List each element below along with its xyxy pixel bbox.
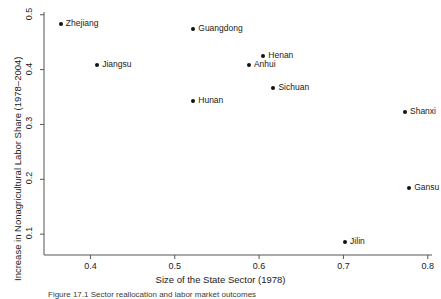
x-tick-label: 0.4 xyxy=(70,261,110,271)
data-point-label: Zhejiang xyxy=(66,18,99,28)
y-tick-label: 0.4 xyxy=(24,62,34,76)
x-tick-label: 0.7 xyxy=(323,261,363,271)
data-point xyxy=(403,110,407,114)
data-point-label: Jilin xyxy=(350,236,365,246)
data-point-label: Guangdong xyxy=(198,23,242,33)
y-tick-label: 0.3 xyxy=(24,116,34,130)
x-axis-ticks xyxy=(90,255,427,259)
data-point-label: Sichuan xyxy=(278,82,309,92)
y-axis-ticks xyxy=(40,15,44,234)
x-tick-label: 0.8 xyxy=(408,261,441,271)
data-point-label: Gansu xyxy=(414,182,439,192)
data-point-label: Shanxi xyxy=(410,106,436,116)
data-point-label: Anhui xyxy=(254,59,276,69)
x-tick-label: 0.6 xyxy=(239,261,279,271)
axis-spines xyxy=(44,12,432,255)
y-tick-label: 0.5 xyxy=(24,7,34,21)
y-tick-label: 0.2 xyxy=(24,171,34,185)
data-point-label: Hunan xyxy=(198,95,223,105)
x-axis-title: Size of the State Sector (1978) xyxy=(0,274,441,285)
data-point-label: Jiangsu xyxy=(102,59,131,69)
data-point xyxy=(407,186,411,190)
y-axis-title: Increase in Nonagricultural Labor Share … xyxy=(12,57,23,281)
figure-caption: Figure 17.1 Sector reallocation and labo… xyxy=(48,290,256,299)
x-tick-label: 0.5 xyxy=(155,261,195,271)
y-tick-label: 0.1 xyxy=(24,226,34,240)
data-point xyxy=(59,22,63,26)
